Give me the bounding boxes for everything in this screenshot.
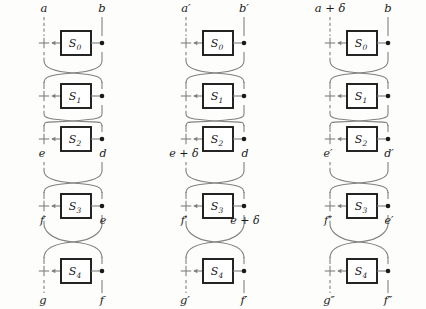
middle-diagram-label-bottom-right: f′: [240, 293, 248, 307]
right-diagram-label-bottom-right: f″: [383, 293, 393, 307]
middle-diagram-arrow-head-2: [193, 137, 197, 142]
left-diagram-arrow-head-2: [51, 137, 55, 142]
left-diagram-label-mid2-left: f: [39, 214, 46, 227]
middle-diagram: a′b′S0S1S2e + δdS3f′e + δS4g′f′: [169, 1, 260, 307]
left-diagram-dot-0: [100, 41, 105, 46]
left-diagram-dot-3: [100, 204, 105, 209]
left-diagram-label-mid2-right: e: [100, 214, 107, 227]
left-diagram-dot-2: [100, 137, 105, 142]
middle-diagram-cross-b-3: [186, 224, 244, 258]
right-diagram-dot-4: [386, 269, 391, 274]
left-diagram-cross-a-1: [44, 114, 102, 126]
right-diagram-cross-b-2: [330, 171, 388, 193]
middle-diagram-cross-b-0: [186, 61, 244, 83]
left-diagram-label-top-left: a: [41, 1, 48, 15]
middle-diagram-arrow-head-3: [193, 204, 197, 209]
middle-diagram-dot-4: [242, 269, 247, 274]
left-diagram-label-bottom-right: f: [99, 293, 106, 307]
middle-diagram-label-top-left: a′: [181, 1, 191, 15]
right-diagram: a + δbS0S1S2e′d′S3f″e′S4g″f″: [315, 1, 395, 307]
left-diagram-label-top-right: b: [98, 1, 105, 15]
left-diagram-dot-4: [100, 269, 105, 274]
middle-diagram-label-mid-right: d: [241, 147, 248, 160]
middle-diagram-cross-a-3: [186, 224, 244, 258]
left-diagram-label-mid-left: e: [39, 147, 46, 160]
right-diagram-label-mid-right: d′: [384, 147, 394, 160]
left-diagram-arrow-head-0: [51, 41, 55, 46]
middle-diagram-cross-b-2: [186, 171, 244, 193]
middle-diagram-dot-3: [242, 204, 247, 209]
middle-diagram-label-bottom-left: g′: [180, 293, 190, 307]
right-diagram-arrow-head-1: [337, 94, 341, 99]
right-diagram-arrow-head-4: [337, 269, 341, 274]
middle-diagram-arrow-head-1: [193, 94, 197, 99]
right-diagram-cross-a-1: [330, 114, 388, 126]
right-diagram-label-mid2-right: e′: [384, 214, 394, 227]
middle-diagram-dot-1: [242, 94, 247, 99]
left-diagram-cross-b-0: [44, 61, 102, 83]
left-diagram-cross-a-0: [44, 61, 102, 83]
right-diagram-dot-3: [386, 204, 391, 209]
right-diagram-label-top-left: a + δ: [315, 1, 346, 15]
left-diagram-cross-b-3: [44, 224, 102, 258]
right-diagram-cross-b-0: [330, 61, 388, 83]
left-diagram-cross-a-2: [44, 171, 102, 193]
left-diagram-cross-b-1: [44, 114, 102, 126]
left-diagram-arrow-head-3: [51, 204, 55, 209]
right-diagram-dot-0: [386, 41, 391, 46]
left-diagram-arrow-head-4: [51, 269, 55, 274]
left-diagram-label-bottom-left: g: [39, 293, 46, 307]
middle-diagram-dot-2: [242, 137, 247, 142]
middle-diagram-dot-0: [242, 41, 247, 46]
left-diagram-label-mid-right: d: [99, 147, 106, 160]
middle-diagram-label-mid2-right: e + δ: [230, 214, 260, 227]
right-diagram-arrow-head-0: [337, 41, 341, 46]
left-diagram-arrow-head-1: [51, 94, 55, 99]
right-diagram-label-mid2-left: f″: [323, 214, 333, 227]
middle-diagram-cross-b-1: [186, 114, 244, 126]
right-diagram-arrow-head-2: [337, 137, 341, 142]
right-diagram-cross-a-3: [330, 224, 388, 258]
left-diagram-cross-a-3: [44, 224, 102, 258]
right-diagram-label-top-right: b: [384, 1, 391, 15]
middle-diagram-label-top-right: b′: [239, 1, 249, 15]
left-diagram-dot-1: [100, 94, 105, 99]
middle-diagram-arrow-head-4: [193, 269, 197, 274]
right-diagram-dot-1: [386, 94, 391, 99]
right-diagram-label-mid-left: e′: [323, 147, 333, 160]
middle-diagram-label-mid2-left: f′: [180, 214, 188, 227]
right-diagram-cross-b-1: [330, 114, 388, 126]
middle-diagram-cross-a-1: [186, 114, 244, 126]
right-diagram-dot-2: [386, 137, 391, 142]
right-diagram-label-bottom-left: g″: [323, 293, 335, 307]
right-diagram-arrow-head-3: [337, 204, 341, 209]
middle-diagram-cross-a-0: [186, 61, 244, 83]
left-diagram-cross-b-2: [44, 171, 102, 193]
feistel-figure: abS0S1S2edS3feS4gfa′b′S0S1S2e + δdS3f′e …: [0, 0, 426, 309]
left-diagram: abS0S1S2edS3feS4gf: [39, 1, 107, 307]
middle-diagram-label-mid-left: e + δ: [169, 147, 199, 160]
right-diagram-cross-a-2: [330, 171, 388, 193]
right-diagram-cross-a-0: [330, 61, 388, 83]
middle-diagram-cross-a-2: [186, 171, 244, 193]
middle-diagram-arrow-head-0: [193, 41, 197, 46]
right-diagram-cross-b-3: [330, 224, 388, 258]
